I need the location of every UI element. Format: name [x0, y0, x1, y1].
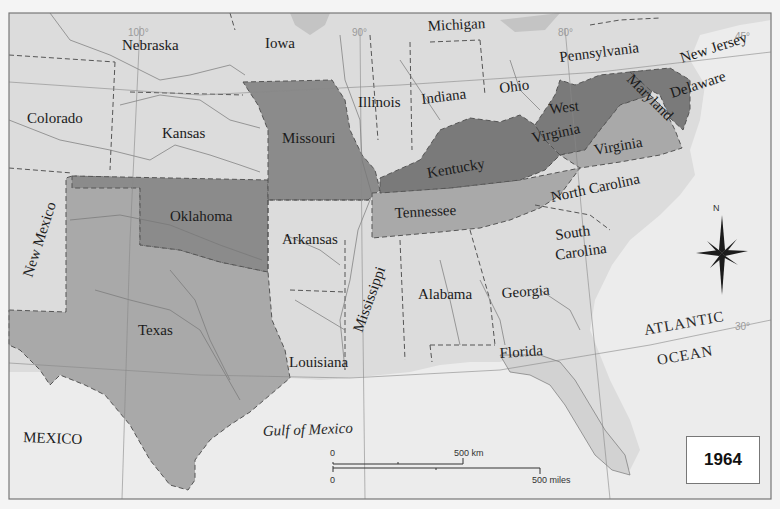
- label-missouri: Missouri: [282, 130, 335, 146]
- label-tennessee: Tennessee: [394, 202, 457, 221]
- label-alabama: Alabama: [418, 286, 472, 302]
- scale-km-label: 500 km: [454, 448, 484, 458]
- label-iowa: Iowa: [265, 35, 295, 51]
- label-colorado: Colorado: [27, 110, 83, 126]
- label-michigan: Michigan: [427, 15, 486, 34]
- map-canvas: 100° 90° 80° 45° 30° Nebraska Iowa Michi…: [0, 0, 780, 509]
- label-kansas: Kansas: [162, 125, 205, 141]
- label-mexico: MEXICO: [23, 429, 83, 447]
- gridline-label-80: 80°: [558, 27, 573, 38]
- label-arkansas: Arkansas: [282, 231, 338, 247]
- year-label: 1964: [704, 450, 742, 470]
- compass-north-label: N: [713, 203, 720, 213]
- label-nebraska: Nebraska: [122, 37, 179, 53]
- label-oklahoma: Oklahoma: [170, 208, 233, 224]
- year-badge: 1964: [686, 436, 760, 484]
- label-florida: Florida: [499, 342, 544, 361]
- label-georgia: Georgia: [501, 282, 550, 301]
- gridline-label-30: 30°: [735, 321, 750, 332]
- label-texas: Texas: [138, 322, 173, 338]
- label-illinois: Illinois: [358, 94, 401, 110]
- scale-km-zero: 0: [330, 448, 335, 458]
- scale-mi-label: 500 miles: [532, 475, 571, 485]
- gridline-label-90: 90°: [352, 27, 367, 38]
- label-louisiana: Louisiana: [289, 354, 348, 370]
- scale-mi-zero: 0: [330, 475, 335, 485]
- label-gulf-of-mexico: Gulf of Mexico: [263, 420, 354, 439]
